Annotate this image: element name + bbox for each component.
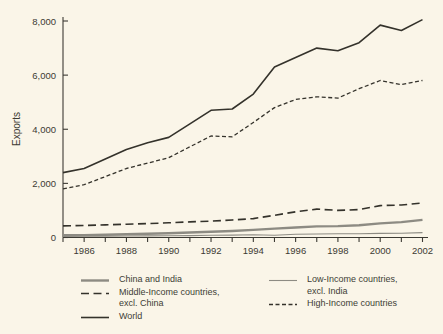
series-line-high_income [63,81,423,189]
legend-label-china-india: China and India [119,274,182,286]
x-tick-label: 1996 [285,245,306,256]
middle-income-line-swatch [80,289,110,298]
legend-label-low-income: Low-Income countries, excl. India [307,274,398,297]
x-tick-label: 2000 [370,245,391,256]
exports-chart-figure: Exports 02,0004,0006,0008,00019861988199… [0,0,443,334]
x-tick-label: 1988 [116,245,137,256]
legend-item-high-income: High-Income countries [268,298,398,310]
series-line-world [63,20,423,173]
china-india-line-swatch [80,276,110,285]
legend-item-middle-income: Middle-Income countries, excl. China [80,287,238,310]
legend-item-low-income: Low-Income countries, excl. India [268,274,398,297]
world-line-swatch [80,313,110,322]
x-tick-label: 1994 [243,245,264,256]
legend-item-china-india: China and India [80,274,238,286]
y-tick-label: 6,000 [32,70,56,81]
chart-legend: China and India Middle-Income countries,… [0,274,443,323]
y-axis-title: Exports [11,112,22,146]
y-tick-label: 8,000 [32,16,56,27]
x-tick-label: 1990 [158,245,179,256]
series-line-china_india [63,220,423,235]
legend-label-world: World [119,311,142,323]
high-income-line-swatch [268,300,298,309]
exports-line-chart: 02,0004,0006,0008,0001986198819901992199… [0,0,443,264]
x-tick-label: 1992 [200,245,221,256]
x-tick-label: 1998 [327,245,348,256]
legend-item-world: World [80,311,238,323]
low-income-line-swatch [268,276,298,285]
y-tick-label: 2,000 [32,178,56,189]
legend-column-right: Low-Income countries, excl. India High-I… [268,274,398,311]
legend-label-high-income: High-Income countries [307,298,397,310]
y-tick-label: 4,000 [32,124,56,135]
x-tick-label: 1986 [74,245,95,256]
y-tick-label: 0 [51,232,56,243]
x-tick-label: 2002 [412,245,433,256]
legend-column-left: China and India Middle-Income countries,… [80,274,238,323]
series-line-middle_income [63,203,423,226]
legend-label-middle-income: Middle-Income countries, excl. China [119,287,220,310]
